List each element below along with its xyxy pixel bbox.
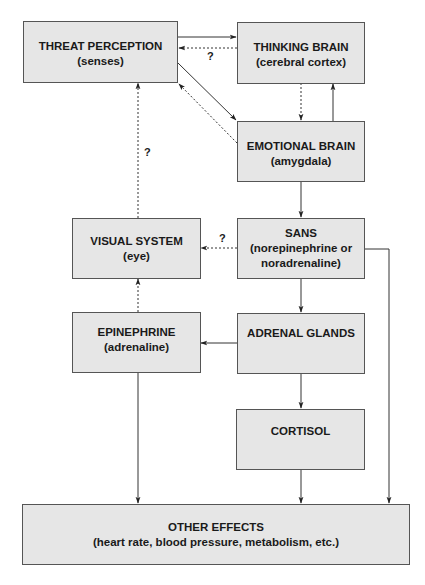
node-threat-perception: THREAT PERCEPTION (senses): [23, 21, 178, 83]
node-subtitle: (cerebral cortex): [238, 55, 364, 70]
node-title: EMOTIONAL BRAIN: [238, 139, 364, 154]
node-sans: SANS (norepinephrine or noradrenaline): [237, 218, 365, 279]
question-mark-visual-to-threat: ?: [144, 146, 151, 158]
node-subtitle: (heart rate, blood pressure, metabolism,…: [23, 535, 409, 550]
node-title: ADRENAL GLANDS: [238, 326, 364, 341]
node-title: THREAT PERCEPTION: [24, 39, 177, 54]
node-emotional-brain: EMOTIONAL BRAIN (amygdala): [237, 121, 365, 182]
node-subtitle: (eye): [73, 249, 200, 264]
node-title: EPINEPHRINE: [73, 325, 200, 340]
question-mark-sans-to-visual: ?: [219, 232, 226, 244]
node-title: CORTISOL: [237, 424, 364, 439]
node-subtitle: (amygdala): [238, 154, 364, 169]
node-epinephrine: EPINEPHRINE (adrenaline): [72, 312, 201, 373]
edge-sans-to-other: [365, 249, 389, 503]
node-other-effects: OTHER EFFECTS (heart rate, blood pressur…: [22, 504, 410, 565]
node-subtitle: (norepinephrine or noradrenaline): [248, 241, 354, 271]
edge-threat-to-emotional: [178, 63, 236, 120]
node-title: OTHER EFFECTS: [23, 520, 409, 535]
connector-layer: [0, 0, 425, 585]
node-cortisol: CORTISOL: [236, 409, 365, 470]
node-title: THINKING BRAIN: [238, 40, 364, 55]
node-title: VISUAL SYSTEM: [73, 234, 200, 249]
question-mark-thinking-to-threat: ?: [207, 50, 214, 62]
node-adrenal-glands: ADRENAL GLANDS: [237, 313, 365, 374]
node-subtitle: (senses): [24, 54, 177, 69]
node-title: SANS: [248, 226, 354, 241]
node-subtitle: (adrenaline): [73, 340, 200, 355]
node-thinking-brain: THINKING BRAIN (cerebral cortex): [237, 22, 365, 84]
node-visual-system: VISUAL SYSTEM (eye): [72, 218, 201, 279]
